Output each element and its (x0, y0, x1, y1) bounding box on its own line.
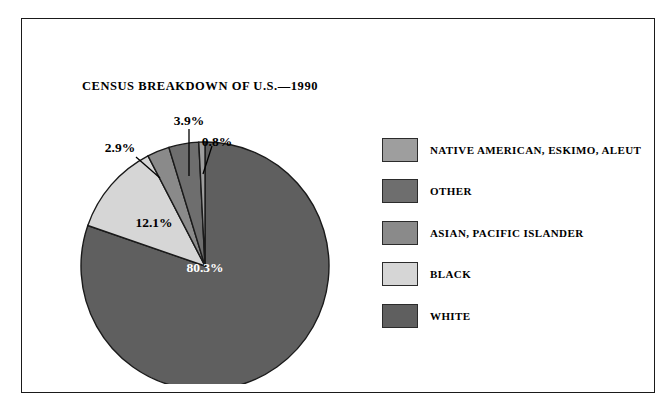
legend-item-white[interactable]: WHITE (382, 295, 671, 337)
callout-value-native-american: 0.8% (202, 134, 232, 149)
legend-swatch-other (382, 179, 418, 203)
legend-item-black[interactable]: BLACK (382, 254, 671, 296)
chart-legend: NATIVE AMERICAN, ESKIMO, ALEUT OTHER ASI… (382, 129, 671, 337)
chart-title: CENSUS BREAKDOWN OF U.S.—1990 (82, 79, 318, 94)
legend-item-asian[interactable]: ASIAN, PACIFIC ISLANDER (382, 212, 671, 254)
legend-swatch-native-american (382, 138, 418, 162)
chart-frame: CENSUS BREAKDOWN OF U.S.—1990 80.3% 12.1… (21, 18, 655, 393)
slice-value-black: 12.1% (135, 215, 172, 230)
legend-label-white: WHITE (430, 310, 471, 322)
legend-swatch-black (382, 262, 418, 286)
callout-value-asian: 2.9% (105, 140, 135, 155)
legend-swatch-white (382, 304, 418, 328)
legend-label-black: BLACK (430, 268, 471, 280)
legend-label-asian: ASIAN, PACIFIC ISLANDER (430, 227, 584, 239)
callout-value-other: 3.9% (174, 114, 204, 128)
pie-chart: 80.3% 12.1% 2.9% 3.9% 0.8% (62, 114, 362, 384)
legend-label-native-american: NATIVE AMERICAN, ESKIMO, ALEUT (430, 144, 641, 156)
legend-swatch-asian (382, 221, 418, 245)
pie-svg: 80.3% 12.1% 2.9% 3.9% 0.8% (62, 114, 362, 384)
legend-item-native-american[interactable]: NATIVE AMERICAN, ESKIMO, ALEUT (382, 129, 671, 171)
slice-value-white: 80.3% (186, 260, 223, 275)
legend-item-other[interactable]: OTHER (382, 171, 671, 213)
legend-label-other: OTHER (430, 185, 472, 197)
